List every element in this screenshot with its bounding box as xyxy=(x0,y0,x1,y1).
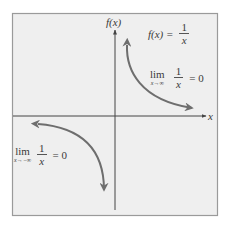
limit-denominator: x xyxy=(174,78,184,90)
limit-result: = 0 xyxy=(189,72,203,84)
lim-subscript: x→−∞ xyxy=(14,157,31,164)
lim-subscript: x→∞ xyxy=(150,80,165,87)
x-axis-label: x xyxy=(208,111,213,122)
limit-fraction: 1 x xyxy=(174,66,184,90)
limit-numerator: 1 xyxy=(174,66,184,78)
limit-numerator: 1 xyxy=(37,143,47,155)
function-denominator: x xyxy=(179,34,189,46)
limit-negative-infinity: lim x→−∞ 1 x = 0 xyxy=(14,143,67,167)
limit-positive-infinity: lim x→∞ 1 x = 0 xyxy=(150,66,204,90)
lim-word: lim xyxy=(150,69,165,80)
function-equation: f(x) = 1 x xyxy=(148,22,191,46)
function-lhs: f(x) = xyxy=(148,28,173,40)
limit-result: = 0 xyxy=(53,149,67,161)
graph-figure xyxy=(0,0,229,226)
limit-fraction: 1 x xyxy=(37,143,47,167)
y-axis-label: f(x) xyxy=(106,17,121,28)
function-numerator: 1 xyxy=(179,22,189,34)
function-fraction: 1 x xyxy=(179,22,189,46)
limit-operator: lim x→−∞ xyxy=(14,146,31,164)
limit-operator: lim x→∞ xyxy=(150,69,165,87)
limit-denominator: x xyxy=(37,155,47,167)
lim-word: lim xyxy=(14,146,31,157)
